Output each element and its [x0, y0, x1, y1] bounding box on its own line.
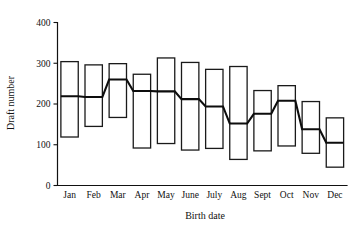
x-tick-label-oct: Oct — [280, 190, 294, 200]
chart-figure: 0100200300400 JanFebMarAprMayJuneJulyAug… — [0, 0, 361, 226]
x-tick-label-nov: Nov — [303, 190, 320, 200]
median-line — [61, 80, 344, 143]
y-tick-label: 400 — [36, 18, 51, 28]
y-axis-title: Draft number — [5, 75, 16, 130]
x-tick-label-aug: Aug — [230, 190, 247, 200]
median-polyline — [61, 80, 344, 143]
y-tick-label: 100 — [36, 140, 51, 150]
quartile-box — [61, 62, 78, 137]
x-tick-label-may: May — [157, 190, 175, 200]
quartile-box — [278, 86, 295, 146]
y-axis-ticks: 0100200300400 — [36, 18, 57, 191]
box-series — [61, 58, 344, 167]
x-tick-label-july: July — [206, 190, 222, 200]
quartile-box — [182, 62, 199, 150]
quartile-box — [85, 65, 102, 127]
x-axis-title: Birth date — [185, 210, 225, 221]
y-tick-label: 0 — [46, 181, 51, 191]
x-tick-label-feb: Feb — [87, 190, 102, 200]
x-tick-label-sept: Sept — [254, 190, 271, 200]
quartile-box — [109, 64, 126, 118]
box-plot-svg: 0100200300400 JanFebMarAprMayJuneJulyAug… — [0, 0, 361, 226]
x-axis-category-labels: JanFebMarAprMayJuneJulyAugSeptOctNovDec — [63, 190, 342, 200]
x-tick-label-june: June — [181, 190, 198, 200]
x-tick-label-apr: Apr — [135, 190, 151, 200]
y-tick-label: 300 — [36, 59, 51, 69]
y-tick-label: 200 — [36, 99, 51, 109]
quartile-box — [230, 67, 247, 160]
quartile-box — [254, 91, 271, 151]
x-tick-label-mar: Mar — [110, 190, 127, 200]
x-tick-label-dec: Dec — [327, 190, 342, 200]
quartile-box — [133, 74, 150, 148]
x-tick-label-jan: Jan — [63, 190, 76, 200]
quartile-box — [206, 69, 223, 148]
quartile-box — [157, 58, 174, 144]
quartile-box — [302, 102, 319, 154]
